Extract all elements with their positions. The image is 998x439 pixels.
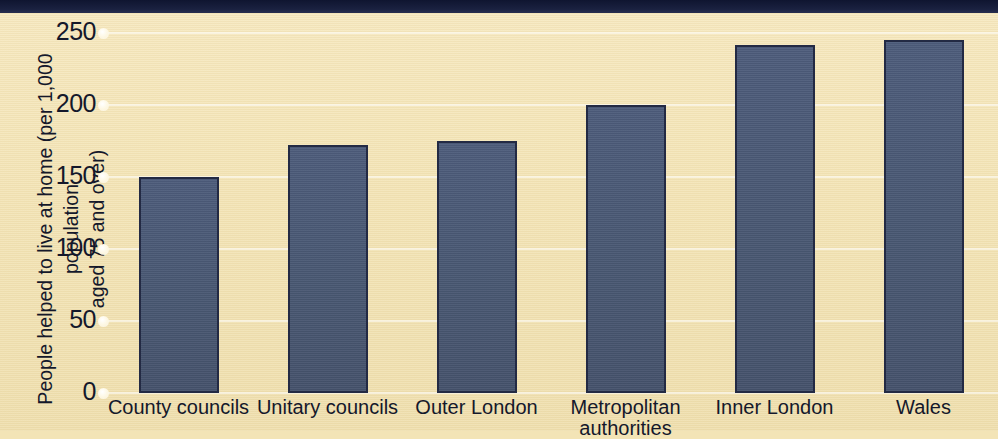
y-axis-tick-mark xyxy=(98,28,109,39)
y-axis-tick-mark xyxy=(98,244,109,255)
x-axis-category-label: Wales xyxy=(849,397,998,418)
gridline xyxy=(104,176,998,178)
y-axis-tick-label: 150 xyxy=(56,161,96,190)
bar xyxy=(288,145,368,393)
x-axis-category-label: Inner London xyxy=(700,397,849,418)
x-axis-category-label: Metropolitan authorities xyxy=(551,397,700,439)
y-axis-tick-label: 0 xyxy=(83,377,96,406)
y-axis-tick-label: 100 xyxy=(56,233,96,262)
x-axis-category-label: County councils xyxy=(104,397,253,418)
x-axis-category-label: Outer London xyxy=(402,397,551,418)
bar xyxy=(437,141,517,393)
gridline xyxy=(104,104,998,106)
gridline xyxy=(104,248,998,250)
bar xyxy=(139,177,219,393)
y-axis-tick-mark xyxy=(98,172,109,183)
y-axis-tick-label: 50 xyxy=(69,305,96,334)
y-axis-tick-labels: 050100150200250 xyxy=(0,33,96,393)
y-axis-tick-label: 200 xyxy=(56,89,96,118)
gridline xyxy=(104,32,998,34)
bar xyxy=(884,40,964,393)
gridline xyxy=(104,392,998,394)
bar xyxy=(735,45,815,393)
y-axis-tick-label: 250 xyxy=(56,17,96,46)
x-axis-category-label: Unitary councils xyxy=(253,397,402,418)
top-navy-band xyxy=(0,0,998,13)
bar xyxy=(586,105,666,393)
gridline xyxy=(104,320,998,322)
y-axis-tick-mark xyxy=(98,316,109,327)
y-axis-tick-mark xyxy=(98,100,109,111)
plot-area xyxy=(104,33,998,393)
